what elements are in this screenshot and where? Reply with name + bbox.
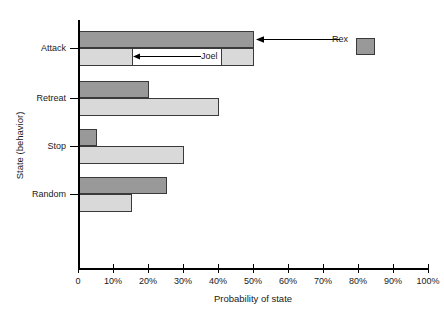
x-tick-50 — [253, 264, 254, 273]
x-tick-label-10: 10% — [93, 276, 133, 287]
joel-annotation-arrow — [133, 52, 201, 61]
bar-random-rex — [79, 177, 167, 194]
x-tick-label-100: 100% — [408, 276, 444, 287]
y-axis-line — [78, 20, 80, 270]
bar-retreat-rex — [79, 81, 149, 98]
x-tick-0 — [78, 264, 79, 273]
x-tick-label-70: 70% — [303, 276, 343, 287]
bar-stop-joel — [79, 146, 184, 164]
y-tick-stop — [70, 146, 79, 147]
y-axis-title: State (behavior) — [14, 66, 25, 226]
y-tick-label-attack: Attack — [41, 43, 66, 54]
x-tick-90 — [393, 264, 394, 273]
x-tick-label-60: 60% — [268, 276, 308, 287]
x-axis-title: Probability of state — [78, 293, 428, 304]
bar-random-joel — [79, 194, 132, 212]
y-tick-label-stop: Stop — [47, 141, 66, 152]
x-tick-60 — [288, 264, 289, 273]
x-tick-label-80: 80% — [338, 276, 378, 287]
bar-stop-rex — [79, 129, 97, 146]
x-tick-70 — [323, 264, 324, 273]
x-tick-label-20: 20% — [128, 276, 168, 287]
y-tick-random — [70, 194, 79, 195]
x-tick-80 — [358, 264, 359, 273]
x-tick-label-30: 30% — [163, 276, 203, 287]
x-tick-label-40: 40% — [198, 276, 238, 287]
legend-swatch-rex — [356, 38, 375, 55]
x-tick-30 — [183, 264, 184, 273]
x-tick-100 — [428, 264, 429, 273]
rex-annotation-label: Rex — [332, 34, 348, 45]
x-tick-label-90: 90% — [373, 276, 413, 287]
x-tick-label-50: 50% — [233, 276, 273, 287]
rex-annotation-arrow — [256, 35, 340, 44]
x-tick-label-0: 0 — [58, 276, 98, 287]
joel-annotation-label: Joel — [201, 51, 218, 62]
bar-attack-rex — [79, 31, 254, 48]
y-tick-retreat — [70, 98, 79, 99]
y-tick-label-random: Random — [32, 189, 66, 200]
x-tick-40 — [218, 264, 219, 273]
y-tick-label-retreat: Retreat — [36, 93, 66, 104]
x-tick-10 — [113, 264, 114, 273]
bar-retreat-joel — [79, 98, 219, 116]
x-tick-20 — [148, 264, 149, 273]
y-tick-attack — [70, 48, 79, 49]
